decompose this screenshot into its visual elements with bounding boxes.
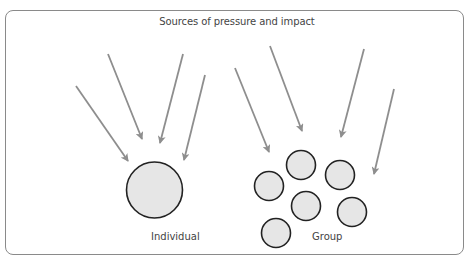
individual-label: Individual — [151, 231, 200, 242]
person-circle — [287, 151, 316, 180]
individual-circle — [127, 162, 183, 218]
pressure-diagram — [0, 0, 474, 263]
group-label: Group — [312, 231, 342, 242]
person-circle — [326, 161, 355, 190]
pressure-arrow — [160, 54, 183, 143]
pressure-arrow — [270, 46, 302, 131]
pressure-arrow — [108, 54, 142, 139]
group-circles — [255, 151, 367, 248]
person-circle — [292, 192, 321, 221]
pressure-arrow — [374, 89, 394, 174]
person-circle — [262, 219, 291, 248]
person-circle — [127, 162, 183, 218]
group-pressure-arrows — [235, 46, 394, 174]
pressure-arrow — [341, 49, 364, 137]
person-circle — [338, 198, 367, 227]
pressure-arrow — [76, 86, 128, 161]
person-circle — [255, 172, 284, 201]
pressure-arrow — [184, 75, 205, 160]
pressure-arrow — [235, 68, 269, 152]
individual-pressure-arrows — [76, 54, 205, 161]
